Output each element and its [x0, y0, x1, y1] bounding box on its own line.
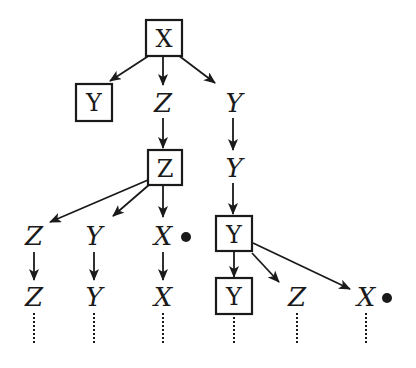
node-label: Z — [157, 155, 174, 183]
node-label: Z — [24, 282, 44, 312]
node-label: Y — [225, 153, 245, 183]
node-label: Y — [85, 221, 105, 251]
edge-x-to-y-right — [178, 55, 215, 83]
marked-dot-icon — [382, 293, 392, 303]
node-label: Z — [287, 282, 307, 312]
edge-boxed-y-to-z — [252, 253, 279, 282]
edge-x-to-y — [110, 55, 150, 81]
node-label: Y — [85, 89, 103, 117]
node-label: Y — [225, 221, 243, 249]
edge-boxed-z-to-y — [113, 184, 150, 216]
continuations — [34, 313, 366, 344]
labels: X Y Z Y Z Y Z Y X Y Z Y X Y Z X — [24, 25, 377, 312]
node-label: Y — [225, 283, 243, 311]
node-label: Z — [153, 88, 173, 118]
search-tree-diagram: X Y Z Y Z Y Z Y X Y Z Y X Y Z X — [0, 0, 416, 368]
node-label-root-x: X — [155, 25, 172, 53]
node-label: X — [152, 282, 174, 312]
node-label: Z — [24, 221, 44, 251]
node-label: Y — [85, 282, 105, 312]
marked-dot-icon — [181, 232, 191, 242]
edge-boxed-z-to-z — [50, 180, 148, 222]
node-label: X — [355, 282, 377, 312]
node-label: Y — [225, 88, 245, 118]
node-label: X — [152, 221, 174, 251]
